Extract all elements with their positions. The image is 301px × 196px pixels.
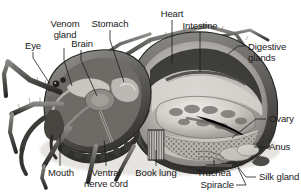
label-trachea: Trachea	[194, 167, 234, 178]
label-stomach: Stomach	[86, 18, 134, 29]
label-book-lung: Book lung	[133, 167, 179, 178]
label-intestine: Intestine	[176, 20, 224, 31]
label-spiracle: Spiracle	[190, 179, 234, 190]
label-ventral-nerve-cord-line2: nerve cord	[78, 178, 134, 189]
label-ventral-nerve-cord-line1: Ventral	[84, 167, 128, 178]
label-heart: Heart	[152, 8, 192, 19]
label-digestive-glands-line2: glands	[248, 52, 300, 63]
label-brain: Brain	[62, 38, 102, 49]
spider-anatomy-figure: Eye Venom gland Brain Stomach Heart Inte…	[0, 0, 301, 196]
label-ovary: Ovary	[269, 113, 301, 124]
label-eye: Eye	[16, 40, 50, 51]
label-silk-gland: Silk gland	[259, 171, 301, 182]
label-digestive-glands-line1: Digestive	[248, 41, 300, 52]
label-anus: Anus	[269, 141, 301, 152]
label-venom-gland-line1: Venom	[44, 18, 86, 29]
label-mouth: Mouth	[42, 167, 80, 178]
